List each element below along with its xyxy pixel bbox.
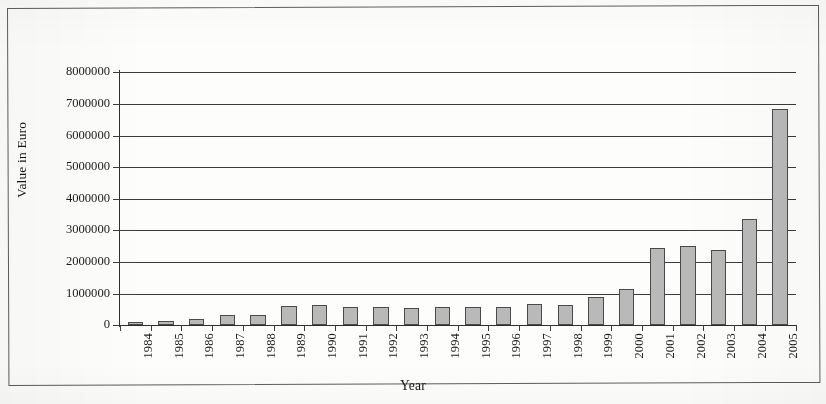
x-axis-tick-label: 1991 <box>356 333 371 359</box>
y-axis-tick <box>113 104 120 105</box>
bar <box>619 289 634 325</box>
y-axis-title: Value in Euro <box>14 122 30 198</box>
bar <box>343 307 358 326</box>
x-axis-tick-label: 1999 <box>601 333 616 359</box>
x-axis-tick <box>734 325 735 331</box>
y-axis-tick <box>113 325 120 326</box>
y-axis-tick <box>113 262 120 263</box>
y-axis-tick-label: 1000000 <box>0 286 110 301</box>
x-axis-tick-label: 2001 <box>663 333 678 359</box>
y-axis-tick <box>113 199 120 200</box>
bar <box>680 246 695 325</box>
y-axis-tick <box>113 72 120 73</box>
x-axis-tick-label: 1986 <box>202 333 217 359</box>
x-axis-tick-label: 1985 <box>172 333 187 359</box>
y-axis-tick-label: 7000000 <box>0 96 110 111</box>
bar <box>250 315 265 325</box>
bar-chart: 0100000020000003000000400000050000006000… <box>0 0 826 404</box>
bar <box>588 297 603 325</box>
x-axis-tick <box>181 325 182 331</box>
bar <box>158 321 173 325</box>
x-axis-tick <box>396 325 397 331</box>
x-axis-tick <box>673 325 674 331</box>
x-axis-tick-label: 1992 <box>386 333 401 359</box>
bar <box>435 307 450 325</box>
bar <box>772 109 787 326</box>
x-axis-title: Year <box>0 378 826 394</box>
x-axis-tick-label: 1989 <box>294 333 309 359</box>
x-axis-tick <box>796 325 797 331</box>
y-axis-tick-label: 3000000 <box>0 222 110 237</box>
gridline <box>120 72 796 73</box>
x-axis-tick-label: 1984 <box>141 333 156 359</box>
y-axis-tick-label: 0 <box>0 317 110 332</box>
x-axis-tick <box>243 325 244 331</box>
x-axis-tick-label: 1988 <box>264 333 279 359</box>
x-axis-tick-label: 1998 <box>571 333 586 359</box>
x-axis-tick <box>304 325 305 331</box>
bar <box>404 308 419 325</box>
bar <box>128 322 143 325</box>
gridline <box>120 167 796 168</box>
y-axis-tick <box>113 230 120 231</box>
x-axis-tick <box>642 325 643 331</box>
y-axis-tick <box>113 167 120 168</box>
x-axis-tick <box>212 325 213 331</box>
bar <box>465 307 480 325</box>
gridline <box>120 136 796 137</box>
x-axis-tick-label: 2005 <box>786 333 801 359</box>
y-axis-tick-label: 2000000 <box>0 254 110 269</box>
bar <box>189 319 204 325</box>
x-axis-tick-label: 1990 <box>325 333 340 359</box>
bar <box>742 219 757 325</box>
x-axis-tick <box>550 325 551 331</box>
x-axis-tick-label: 1993 <box>417 333 432 359</box>
x-axis-tick <box>151 325 152 331</box>
bar <box>496 307 511 326</box>
x-axis-tick-label: 1994 <box>448 333 463 359</box>
x-axis-tick <box>120 325 121 331</box>
bar <box>527 304 542 325</box>
x-axis-tick-label: 1987 <box>233 333 248 359</box>
figure-root: 0100000020000003000000400000050000006000… <box>0 0 826 404</box>
x-axis-tick <box>765 325 766 331</box>
bar <box>312 305 327 325</box>
gridline <box>120 104 796 105</box>
x-axis-tick <box>427 325 428 331</box>
x-axis-tick <box>366 325 367 331</box>
x-axis-tick <box>488 325 489 331</box>
x-axis-tick <box>611 325 612 331</box>
gridline <box>120 199 796 200</box>
x-axis-tick-label: 2003 <box>724 333 739 359</box>
y-axis-tick <box>113 136 120 137</box>
bar <box>650 248 665 325</box>
x-axis-tick-label: 1997 <box>540 333 555 359</box>
y-axis-tick-label: 8000000 <box>0 64 110 79</box>
x-axis-tick <box>581 325 582 331</box>
x-axis-tick <box>458 325 459 331</box>
x-axis-tick-label: 2002 <box>694 333 709 359</box>
x-axis-tick <box>703 325 704 331</box>
y-axis-tick <box>113 294 120 295</box>
x-axis-tick-label: 1995 <box>479 333 494 359</box>
bar <box>711 250 726 325</box>
x-axis-tick <box>335 325 336 331</box>
bar <box>220 315 235 325</box>
x-axis-tick <box>519 325 520 331</box>
x-axis-tick <box>274 325 275 331</box>
x-axis-tick-label: 2000 <box>632 333 647 359</box>
bar <box>281 306 296 325</box>
bar <box>373 307 388 325</box>
bar <box>558 305 573 326</box>
x-axis-tick-label: 2004 <box>755 333 770 359</box>
x-axis-tick-label: 1996 <box>509 333 524 359</box>
gridline <box>120 230 796 231</box>
